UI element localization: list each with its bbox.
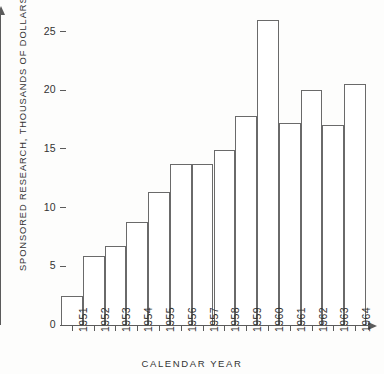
y-tick-label: 15 — [28, 142, 56, 154]
y-tick-mark — [60, 31, 66, 32]
x-tick-label: 1963 — [338, 290, 350, 332]
y-axis-arrowhead — [0, 6, 5, 15]
x-tick-label: 1960 — [273, 290, 285, 332]
x-tick-mark — [115, 326, 116, 331]
x-tick-mark — [159, 326, 160, 331]
x-tick-label: 1951 — [77, 290, 89, 332]
y-tick-label: 0 — [28, 318, 56, 330]
y-tick-label: 25 — [28, 25, 56, 37]
x-tick-mark — [181, 326, 182, 331]
x-tick-mark — [203, 326, 204, 331]
x-tick-label: 1955 — [164, 290, 176, 332]
x-tick-label: 1952 — [99, 290, 111, 332]
y-tick-mark — [60, 207, 66, 208]
y-axis-line — [0, 14, 1, 325]
x-tick-label: 1954 — [142, 290, 154, 332]
x-tick-mark — [137, 326, 138, 331]
bar — [344, 84, 366, 325]
x-tick-mark — [268, 326, 269, 331]
x-tick-mark — [333, 326, 334, 331]
x-tick-label: 1962 — [317, 290, 329, 332]
x-tick-mark — [246, 326, 247, 331]
x-tick-label: 1959 — [251, 290, 263, 332]
x-tick-mark — [72, 326, 73, 331]
bar — [257, 20, 279, 325]
bar-chart-figure: SPONSORED RESEARCH, THOUSANDS OF DOLLARS… — [0, 0, 384, 374]
y-tick-label: 5 — [28, 259, 56, 271]
x-tick-label: 1958 — [229, 290, 241, 332]
x-axis-title: CALENDAR YEAR — [0, 358, 384, 369]
x-tick-mark — [355, 326, 356, 331]
y-tick-label: 10 — [28, 201, 56, 213]
y-tick-mark — [60, 266, 66, 267]
x-tick-label: 1956 — [186, 290, 198, 332]
x-tick-label: 1953 — [120, 290, 132, 332]
x-tick-mark — [290, 326, 291, 331]
y-tick-mark — [60, 90, 66, 91]
x-tick-mark — [312, 326, 313, 331]
x-tick-label: 1961 — [295, 290, 307, 332]
y-tick-label: 20 — [28, 83, 56, 95]
x-tick-label: 1964 — [360, 290, 372, 332]
x-tick-label: 1957 — [208, 290, 220, 332]
y-tick-mark — [60, 148, 66, 149]
y-axis-title: SPONSORED RESEARCH, THOUSANDS OF DOLLARS — [18, 3, 28, 271]
x-tick-mark — [224, 326, 225, 331]
x-tick-mark — [94, 326, 95, 331]
